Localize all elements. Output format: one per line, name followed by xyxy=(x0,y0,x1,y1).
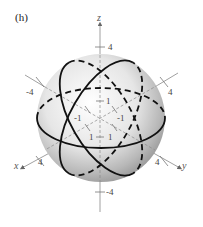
sphere-diagram xyxy=(0,0,203,227)
y-axis-upper xyxy=(158,73,178,85)
inner-tick-yneg1: -1 xyxy=(117,114,125,123)
z-axis-label: z xyxy=(97,13,101,23)
x-tick-neg4: -4 xyxy=(26,88,34,97)
panel-label: (h) xyxy=(15,12,28,23)
y-tick-4: 4 xyxy=(155,158,160,167)
x-axis-upper xyxy=(25,75,45,87)
y-axis-label: y xyxy=(182,161,186,171)
inner-tick-z1: 1 xyxy=(106,97,111,106)
inner-tick-y1: 1 xyxy=(108,133,113,142)
x-tick-4: 4 xyxy=(38,158,43,167)
y-tick-upper-4: 4 xyxy=(168,88,173,97)
z-tick-4: 4 xyxy=(108,43,113,52)
inner-tick-xneg1: -1 xyxy=(74,114,82,123)
z-tick-neg4: -4 xyxy=(106,188,114,197)
inner-tick-x1: 1 xyxy=(89,133,94,142)
x-axis-label: x xyxy=(14,161,18,171)
